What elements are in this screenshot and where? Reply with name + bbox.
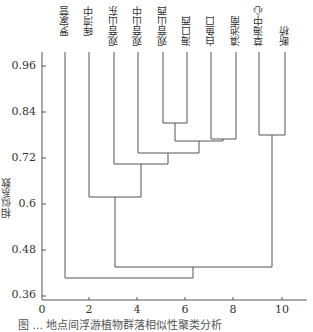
leaf-label: 观音山中 (133, 6, 143, 46)
y-tick-label: 0.48 (0, 243, 36, 256)
y-tick-label: 0.6 (0, 197, 36, 210)
y-tick-label: 0.84 (0, 105, 36, 118)
leaf-label: 白鱼口 (206, 16, 216, 46)
leaf-label: 海口西 (182, 16, 192, 46)
y-tick-label: 0.36 (0, 288, 36, 301)
leaf-label: 断桥 (280, 26, 290, 46)
leaf-label: 观音山西 (158, 6, 168, 46)
leaf-label: 草海中心 (254, 6, 264, 46)
x-tick-label: 6 (175, 303, 195, 316)
y-tick-label: 0.72 (0, 151, 36, 164)
y-tick-label: 0.96 (0, 59, 36, 72)
dendrogram-links (65, 52, 285, 278)
leaf-label: 晖湾中 (84, 6, 94, 36)
x-tick-label: 2 (79, 303, 99, 316)
leaf-label: 滇池南 (231, 16, 241, 46)
leaf-label: 观音山东 (109, 6, 119, 46)
x-tick-label: 0 (32, 303, 52, 316)
x-tick-label: 10 (272, 303, 292, 316)
leaf-label: 罗家营 (60, 6, 70, 36)
axes (42, 52, 307, 300)
x-tick-label: 8 (223, 303, 243, 316)
figure-caption: 图 ... 地点间浮游植物群落相似性聚类分析 (18, 316, 222, 332)
x-tick-label: 4 (127, 303, 147, 316)
